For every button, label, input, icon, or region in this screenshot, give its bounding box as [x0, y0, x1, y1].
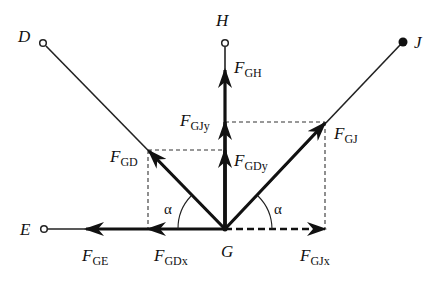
node-h-marker [222, 40, 229, 47]
force-diagram [0, 0, 445, 281]
label-d: D [18, 28, 30, 45]
angle-arc-left [178, 196, 191, 229]
label-g: G [221, 243, 233, 260]
arrow-f-gd [149, 151, 225, 229]
label-f-gdx: FGDx [154, 247, 188, 264]
label-j: J [414, 34, 422, 51]
label-h: H [216, 12, 228, 29]
angle-label-left: α [164, 202, 172, 217]
label-f-gh: FGH [234, 59, 262, 76]
node-d-marker [40, 40, 47, 47]
label-e: E [20, 221, 30, 238]
node-g-joint [223, 227, 228, 232]
node-j-marker [399, 38, 408, 47]
label-f-gd: FGD [110, 148, 138, 165]
angle-label-right: α [274, 202, 282, 217]
label-f-gjy: FGJy [180, 112, 210, 129]
label-f-gjx: FGJx [300, 247, 330, 264]
node-e-marker [41, 226, 48, 233]
angle-arc-right [258, 196, 272, 229]
label-f-ge: FGE [82, 247, 108, 264]
label-f-gdy: FGDy [234, 152, 268, 169]
label-f-gj: FGJ [334, 125, 358, 142]
